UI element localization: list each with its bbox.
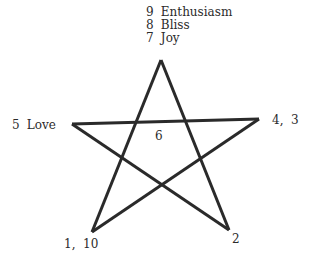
label-bottom-left-vertex: 1, 10 xyxy=(64,238,98,251)
label-center: 6 xyxy=(155,130,163,143)
label-right-vertex: 4, 3 xyxy=(272,114,299,127)
label-joy: 7 Joy xyxy=(146,32,232,45)
label-love: 5 Love xyxy=(12,119,56,132)
top-vertex-labels: 9 Enthusiasm 8 Bliss 7 Joy xyxy=(146,6,232,45)
star-edge-left-bottomright xyxy=(72,124,229,230)
star-edge-bottomleft-right xyxy=(92,119,259,232)
label-bottom-right-vertex: 2 xyxy=(232,233,240,246)
star-edge-right-left xyxy=(72,119,259,124)
